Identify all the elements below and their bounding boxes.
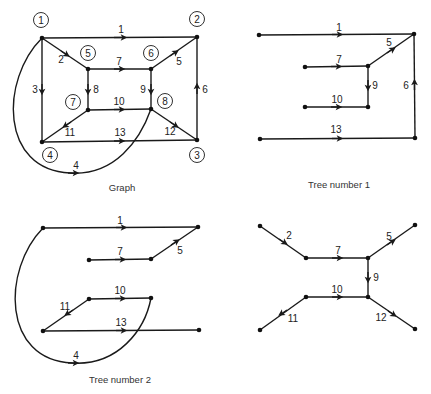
- tree1-edge-label-1: 1: [336, 22, 342, 33]
- tree2-edge-label-5: 5: [177, 245, 183, 256]
- node-label-2: 2: [194, 14, 200, 25]
- node-label-4: 4: [47, 150, 53, 161]
- tree2-edge-label-13: 13: [115, 317, 127, 328]
- edge-label-2: 2: [58, 54, 64, 65]
- tree3-edge-label-9: 9: [373, 272, 379, 283]
- edge-label-13: 13: [114, 127, 126, 138]
- edge-label-3: 3: [32, 84, 38, 95]
- tree1-caption: Tree number 1: [308, 179, 370, 190]
- edge-label-1: 1: [118, 24, 124, 35]
- edge-label-6: 6: [202, 84, 208, 95]
- tree1-edge-label-13: 13: [330, 124, 342, 135]
- tree2-edge-label-11: 11: [60, 301, 71, 312]
- tree3-edge-label-10: 10: [331, 284, 343, 295]
- node-2: [195, 35, 200, 40]
- tree1-edge-label-7: 7: [336, 54, 342, 65]
- tree2-edge-label-7: 7: [117, 246, 123, 257]
- edge-label-7: 7: [116, 56, 122, 67]
- graph-caption: Graph: [109, 182, 135, 193]
- tree3-panel: 2 7 5 9 10 11 12: [258, 223, 418, 333]
- edge-label-4: 4: [73, 160, 79, 171]
- tree1-edge-label-6: 6: [403, 80, 409, 91]
- node-label-1: 1: [38, 15, 44, 26]
- graph-panel: 1 2 3 4 5 6 7 8 1 2 3 4 5 6 7 8 9: [13, 12, 208, 194]
- node-label-3: 3: [194, 150, 200, 161]
- node-5: [86, 67, 91, 72]
- node-7: [86, 108, 91, 113]
- graph-edge-labels: 1 2 3 4 5 6 7 8 9 10 11 12 13: [32, 24, 208, 171]
- tree1-edge-label-10: 10: [331, 94, 343, 105]
- tree1-edge-label-5: 5: [386, 37, 392, 48]
- node-8: [149, 107, 154, 112]
- tree2-edge-label-10: 10: [114, 285, 126, 296]
- tree1-panel: 1 5 7 9 10 6 13 Tree number 1: [257, 22, 418, 190]
- graph-figure: 1 2 3 4 5 6 7 8 1 2 3 4 5 6 7 8 9: [0, 0, 431, 394]
- tree3-edge-label-2: 2: [286, 230, 292, 241]
- edge-label-8: 8: [93, 84, 99, 95]
- tree3-edge-label-11: 11: [288, 313, 299, 324]
- node-6: [149, 67, 154, 72]
- tree2-edge-label-4: 4: [73, 350, 79, 361]
- node-3: [195, 138, 200, 143]
- node-4: [40, 140, 45, 145]
- tree3-edge-label-12: 12: [375, 312, 387, 323]
- edge-label-10: 10: [113, 96, 125, 107]
- node-label-7: 7: [70, 97, 76, 108]
- node-label-5: 5: [85, 48, 91, 59]
- edge-label-9: 9: [140, 84, 146, 95]
- tree2-edge-label-1: 1: [117, 215, 123, 226]
- tree2-panel: 1 7 5 10 11 13 4 Tree number 2: [15, 215, 201, 385]
- edge-label-5: 5: [176, 56, 182, 67]
- tree3-edge-label-5: 5: [386, 231, 392, 242]
- edge-label-12: 12: [164, 126, 176, 137]
- node-label-6: 6: [148, 48, 154, 59]
- tree1-edge-label-9: 9: [372, 80, 378, 91]
- node-1: [40, 36, 45, 41]
- tree3-edge-label-7: 7: [335, 245, 341, 256]
- node-label-8: 8: [162, 96, 168, 107]
- edge-label-11: 11: [65, 127, 76, 138]
- tree2-caption: Tree number 2: [89, 374, 151, 385]
